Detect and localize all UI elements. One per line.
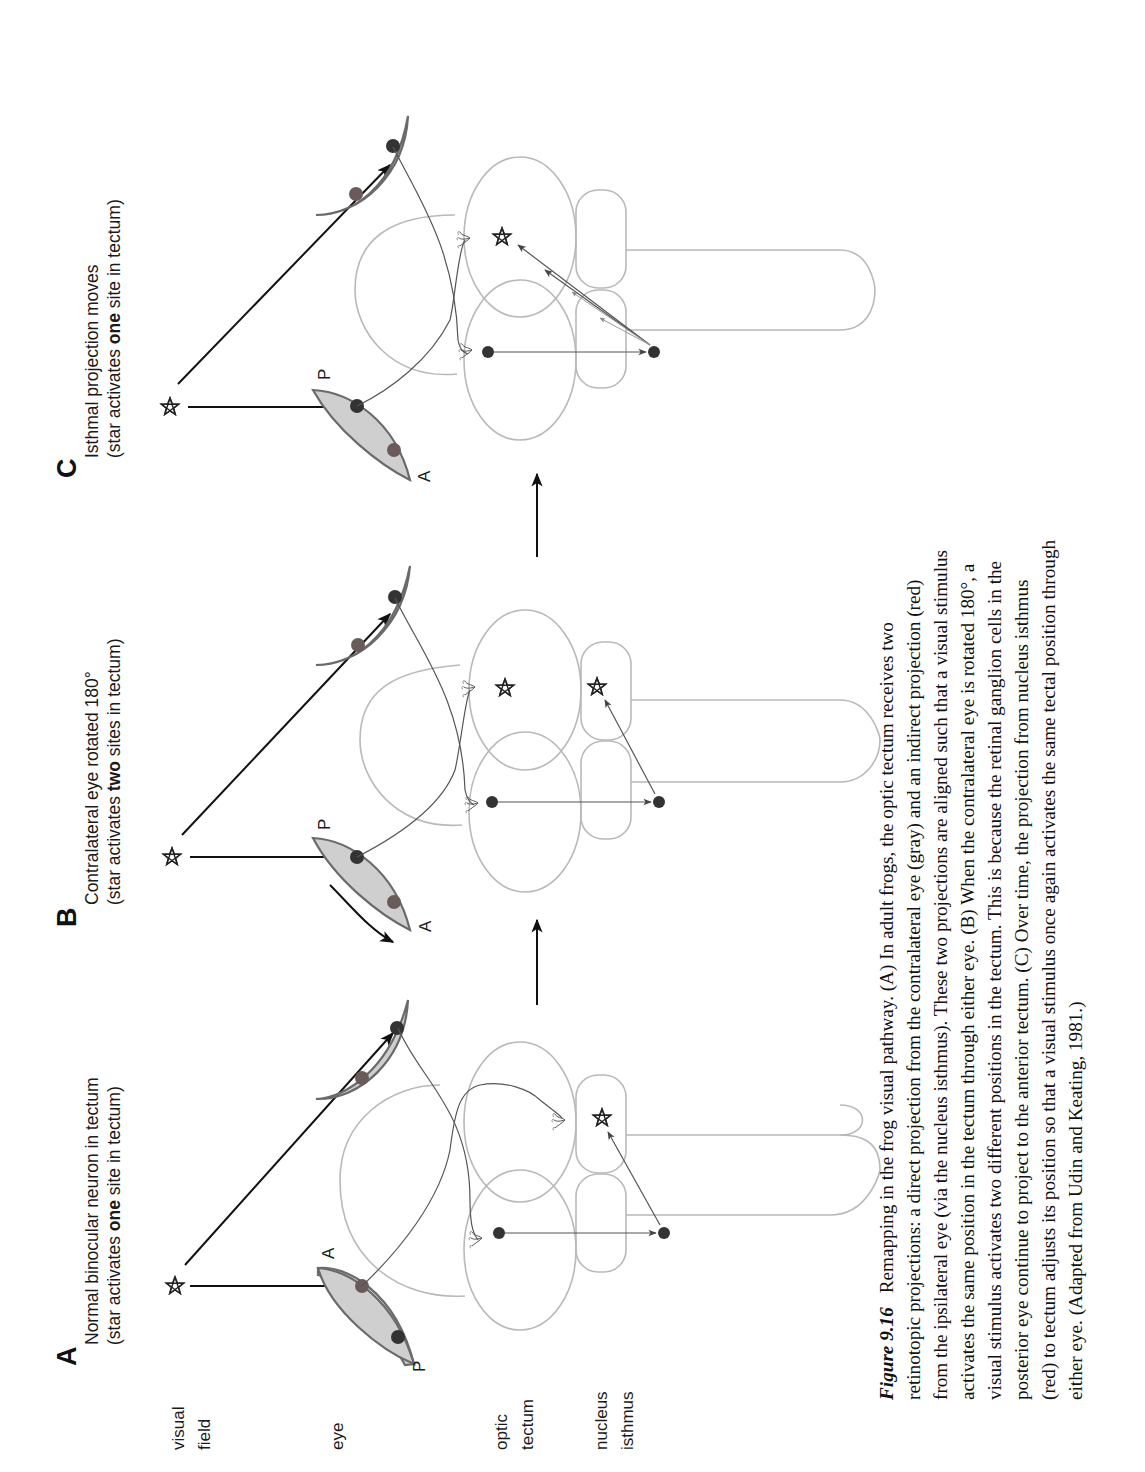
panel-a-ipsi-axon bbox=[362, 1084, 562, 1286]
panel-a-brain-outline bbox=[340, 1042, 880, 1330]
panel-b-tectal-site-2-star-icon bbox=[588, 678, 605, 695]
panel-c-contralateral-eye bbox=[316, 116, 408, 215]
panel-a-ray-to-contra-eye bbox=[185, 1033, 393, 1265]
panel-b-ipsi-label-p: P bbox=[315, 819, 334, 830]
row-labels: visual field eye optic tectum nucleus is… bbox=[169, 1387, 637, 1450]
panel-c: C Isthmal projection moves (star activat… bbox=[52, 116, 875, 482]
row-label-optic-tectum: optic tectum bbox=[492, 1399, 537, 1450]
caption-figure-label: Figure 9.16 bbox=[876, 1307, 897, 1401]
panel-b: B Contralateral eye rotated 180° (star a… bbox=[52, 566, 880, 942]
figure-canvas: visual field eye optic tectum nucleus is… bbox=[0, 0, 1145, 1472]
caption-text: Figure 9.16Remapping in the frog visual … bbox=[876, 535, 1087, 1401]
panel-c-letter: C bbox=[52, 459, 82, 479]
panel-a-tectal-site-star-icon bbox=[593, 1109, 610, 1126]
panel-a-contra-axon bbox=[398, 1028, 478, 1240]
panel-b-ipsi-label-a: A bbox=[416, 920, 435, 932]
panel-b-title: Contralateral eye rotated 180° (star act… bbox=[82, 639, 124, 905]
panel-b-contralateral-eye bbox=[316, 566, 410, 665]
panel-a-contra-cell-dark bbox=[390, 1021, 404, 1035]
panel-a-letter: A bbox=[52, 1347, 82, 1367]
row-label-visual-field: visual field bbox=[169, 1402, 214, 1450]
row-label-eye: eye bbox=[328, 1423, 347, 1450]
figure-caption: Figure 9.16Remapping in the frog visual … bbox=[876, 535, 1087, 1401]
panel-a-isthmus-cell bbox=[658, 1227, 670, 1239]
panel-a-tectal-cell bbox=[493, 1227, 505, 1239]
panel-c-tectal-site-star-icon bbox=[493, 228, 510, 245]
panel-a-ipsi-label-p: P bbox=[410, 1361, 429, 1372]
panel-c-ipsi-label-a: A bbox=[415, 470, 434, 482]
panel-b-brain-outline bbox=[360, 610, 880, 892]
panel-a-contralateral-eye bbox=[316, 1000, 408, 1099]
panel-c-visual-stimulus-star-icon bbox=[161, 398, 178, 415]
panel-c-brain-outline bbox=[355, 157, 875, 440]
panel-a-ipsi-cell-dark bbox=[391, 1330, 405, 1344]
panel-a-title: Normal binocular neuron in tectum (star … bbox=[82, 1073, 124, 1345]
panel-c-ipsi-label-p: P bbox=[315, 369, 334, 380]
panel-a-contra-cell-red bbox=[355, 1071, 369, 1085]
panel-a-ipsi-label-a: A bbox=[319, 1247, 338, 1259]
row-label-nucleus-isthmus: nucleus isthmus bbox=[592, 1387, 637, 1450]
panel-b-letter: B bbox=[52, 908, 82, 928]
panel-a-visual-stimulus-star-icon bbox=[166, 1277, 183, 1294]
panel-b-visual-stimulus-star-icon bbox=[163, 848, 180, 865]
panel-a: A Normal binocular neuron in tectum (sta… bbox=[52, 1000, 880, 1372]
panel-c-title: Isthmal projection moves (star activates… bbox=[82, 199, 124, 458]
